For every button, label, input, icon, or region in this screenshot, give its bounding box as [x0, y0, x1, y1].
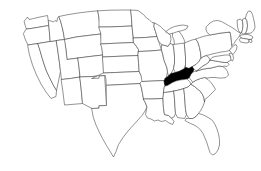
state-fl[interactable] [185, 114, 220, 156]
state-mn[interactable] [131, 10, 157, 38]
state-in[interactable] [173, 43, 186, 73]
state-ar[interactable] [140, 81, 166, 100]
state-ks[interactable] [103, 56, 139, 74]
state-sd[interactable] [99, 26, 134, 44]
state-ri[interactable] [249, 40, 252, 43]
us-locator-map [0, 0, 261, 171]
state-nd[interactable] [98, 10, 132, 27]
state-az[interactable] [62, 77, 83, 105]
us-map-svg [0, 0, 261, 171]
state-nm[interactable] [80, 76, 107, 109]
state-pa[interactable] [196, 32, 232, 58]
state-ms[interactable] [163, 91, 176, 118]
state-ne[interactable] [101, 43, 139, 58]
state-co[interactable] [78, 55, 105, 77]
state-me[interactable] [246, 11, 256, 34]
